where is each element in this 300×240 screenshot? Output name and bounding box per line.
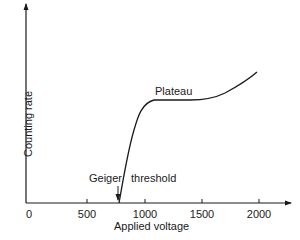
- x-axis-label: Applied voltage: [114, 220, 189, 232]
- plateau-label: Plateau: [155, 85, 192, 97]
- x-tick-2000: 2000: [247, 208, 271, 220]
- threshold-label: threshold: [131, 172, 176, 184]
- x-tick-1500: 1500: [190, 208, 214, 220]
- x-tick-500: 500: [78, 208, 96, 220]
- geiger-label: Geiger: [89, 172, 122, 184]
- chart-canvas: [0, 0, 300, 240]
- x-tick-1000: 1000: [133, 208, 157, 220]
- y-axis-label: Counting rate: [22, 84, 34, 164]
- x-tick-0: 0: [26, 208, 32, 220]
